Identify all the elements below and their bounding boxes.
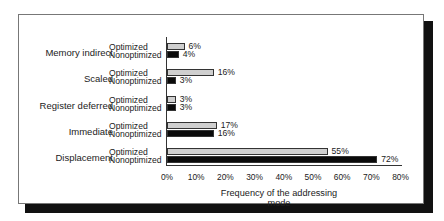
x-tick-label: 50% [298,172,328,182]
value-label: 16% [218,129,235,137]
category-label: Memory indirect [0,47,113,58]
category-label: Register deferred [0,100,113,111]
bar-nonoptimized [167,156,377,163]
value-label: 3% [180,103,192,111]
category-label: Displacement [0,152,113,163]
x-axis-line [166,165,402,166]
x-tick-label: 80% [386,172,416,182]
bar-nonoptimized [167,104,176,111]
value-label: 4% [183,50,195,58]
series-label: Nonoptimized [109,104,162,112]
x-tick-label: 70% [356,172,386,182]
bar-nonoptimized [167,130,214,137]
bar-optimized [167,122,217,129]
category-label: Scaled [0,73,113,84]
bar-optimized [167,43,185,50]
category-label: Immediate [0,126,113,137]
series-label: Nonoptimized [109,130,162,138]
series-label: Nonoptimized [109,156,162,164]
value-label: 72% [381,155,398,163]
x-tick-label: 20% [210,172,240,182]
bar-optimized [167,96,176,103]
value-label: 3% [180,76,192,84]
chart-frame: Frequency of the addressing mode Memory … [18,14,424,204]
series-label: Nonoptimized [109,51,162,59]
value-label: 16% [218,68,235,76]
bar-nonoptimized [167,51,179,58]
x-tick-label: 0% [152,172,182,182]
x-tick-label: 60% [327,172,357,182]
x-axis-title: Frequency of the addressing mode [209,188,349,208]
x-tick-label: 40% [269,172,299,182]
bar-optimized [167,148,328,155]
bar-nonoptimized [167,77,176,84]
value-label: 55% [332,147,349,155]
series-label: Nonoptimized [109,77,162,85]
x-tick-label: 10% [181,172,211,182]
x-tick-label: 30% [240,172,270,182]
